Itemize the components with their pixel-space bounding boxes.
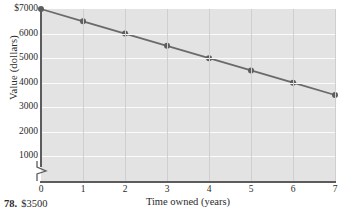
gridline-vertical bbox=[209, 9, 210, 181]
x-tick-label: 1 bbox=[71, 184, 95, 194]
y-tick-label: 4000 bbox=[0, 78, 38, 88]
y-tick-label: 2000 bbox=[0, 127, 38, 137]
answer-annotation: 78.$3500 bbox=[4, 198, 47, 209]
answer-number: 78. bbox=[4, 198, 17, 209]
gridline-vertical bbox=[251, 9, 252, 181]
gridline-horizontal bbox=[41, 34, 335, 35]
y-tick-label: 1000 bbox=[0, 151, 38, 161]
gridline-horizontal bbox=[41, 156, 335, 157]
gridline-horizontal bbox=[41, 132, 335, 133]
x-tick-label: 2 bbox=[113, 184, 137, 194]
x-tick-label: 3 bbox=[155, 184, 179, 194]
y-tick-label: 5000 bbox=[0, 53, 38, 63]
y-tick-label: 6000 bbox=[0, 29, 38, 39]
x-tick-label: 5 bbox=[239, 184, 263, 194]
y-tick-label: $7000 bbox=[0, 4, 38, 14]
x-axis-line bbox=[40, 181, 336, 183]
gridline-vertical bbox=[83, 9, 84, 181]
answer-value: $3500 bbox=[21, 198, 47, 209]
x-tick-label: 4 bbox=[197, 184, 221, 194]
gridline-horizontal bbox=[41, 83, 335, 84]
gridline-horizontal bbox=[41, 107, 335, 108]
gridline-vertical bbox=[167, 9, 168, 181]
data-series-line bbox=[41, 9, 335, 181]
x-axis-label: Time owned (years) bbox=[41, 196, 335, 207]
x-tick-label: 0 bbox=[29, 184, 53, 194]
x-tick-label: 6 bbox=[281, 184, 305, 194]
gridline-vertical bbox=[293, 9, 294, 181]
gridline-vertical bbox=[335, 9, 336, 181]
y-tick-label: 3000 bbox=[0, 102, 38, 112]
y-axis-line bbox=[40, 8, 42, 167]
x-tick-label: 7 bbox=[323, 184, 342, 194]
gridline-vertical bbox=[125, 9, 126, 181]
gridline-horizontal bbox=[41, 58, 335, 59]
plot-area bbox=[41, 9, 335, 181]
